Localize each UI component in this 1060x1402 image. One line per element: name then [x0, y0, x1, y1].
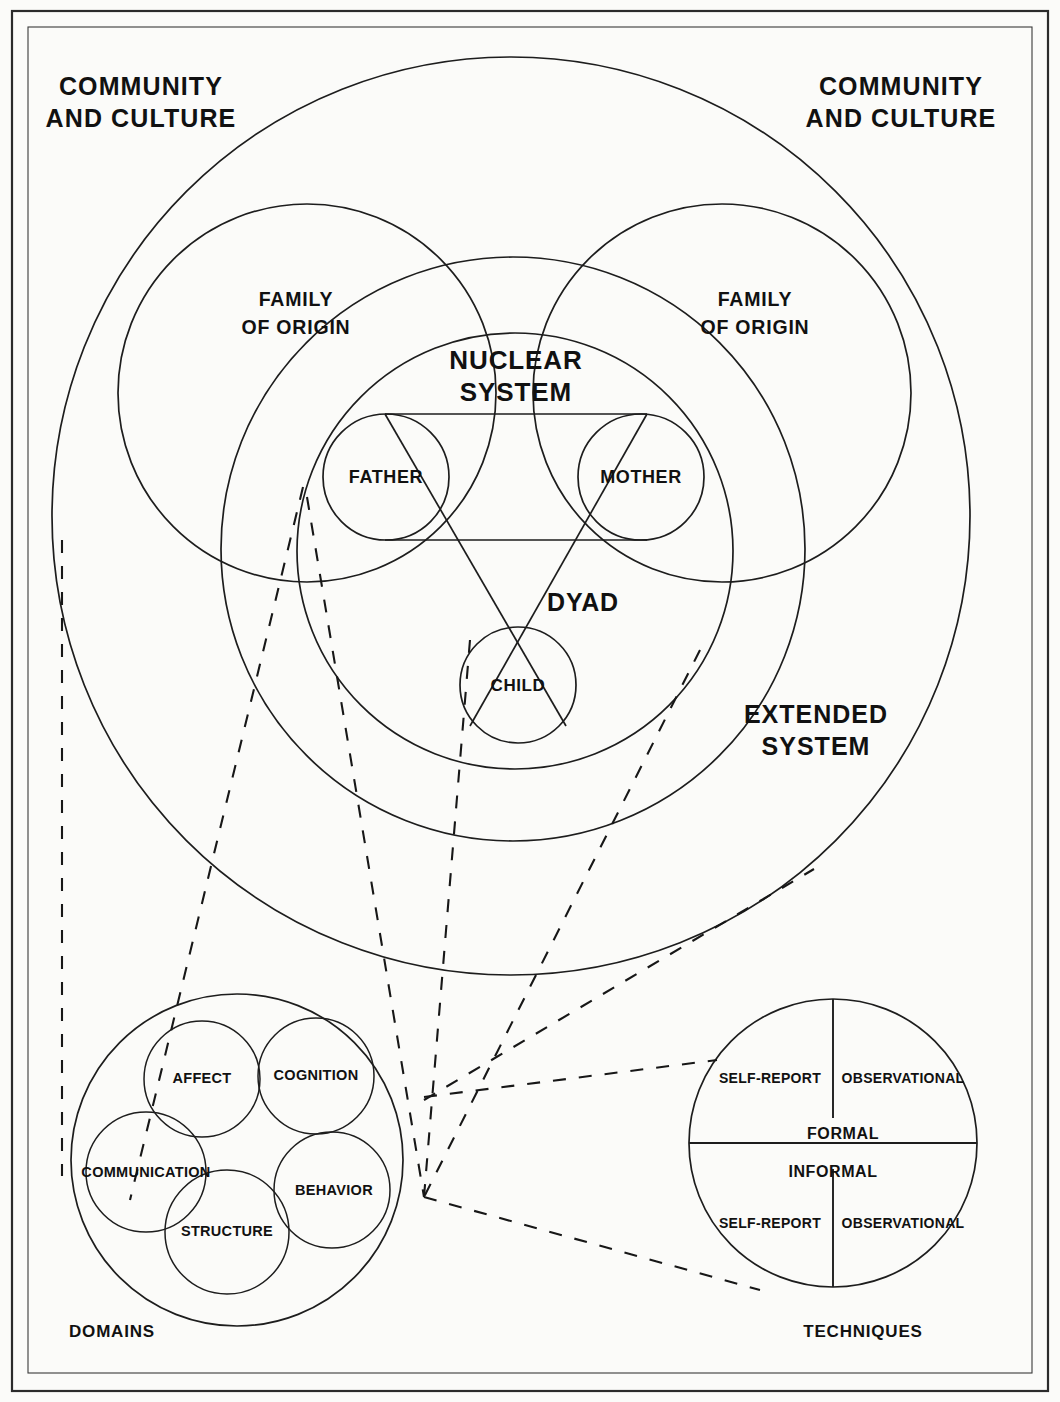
domains-outer-circle: [71, 994, 403, 1326]
techniques-quadrant-formal-observational: OBSERVATIONAL: [842, 1070, 965, 1086]
family-of-origin-right-line1: FAMILY: [718, 288, 793, 310]
domain-label-communication: COMMUNICATION: [81, 1164, 210, 1180]
techniques-band-formal: FORMAL: [807, 1125, 879, 1142]
dashed-connector-hub-to-techniques-upper: [424, 1060, 717, 1097]
techniques-quadrant-formal-self-report: SELF-REPORT: [719, 1070, 821, 1086]
techniques-band-informal: INFORMAL: [788, 1163, 877, 1180]
community-culture-left-line2: AND CULTURE: [46, 104, 237, 132]
domain-label-cognition: COGNITION: [274, 1067, 359, 1083]
extended-system-line1: EXTENDED: [744, 700, 888, 728]
domain-label-behavior: BEHAVIOR: [295, 1182, 373, 1198]
domain-label-affect: AFFECT: [173, 1070, 232, 1086]
father-label: FATHER: [349, 467, 423, 487]
community-culture-left-line1: COMMUNITY: [59, 72, 223, 100]
techniques-quadrant-informal-self-report: SELF-REPORT: [719, 1215, 821, 1231]
child-label: CHILD: [491, 676, 546, 695]
mother-label: MOTHER: [600, 467, 682, 487]
extended-system-line2: SYSTEM: [762, 732, 871, 760]
domains-caption: DOMAINS: [69, 1322, 155, 1341]
dashed-connector-father-to-domains: [130, 487, 303, 1200]
family-of-origin-left-line1: FAMILY: [259, 288, 334, 310]
techniques-caption: TECHNIQUES: [803, 1322, 922, 1341]
community-culture-right-line2: AND CULTURE: [806, 104, 997, 132]
dashed-connector-extended-to-domains: [307, 497, 424, 1197]
domain-label-structure: STRUCTURE: [181, 1223, 273, 1239]
systems-diagram: COMMUNITY AND CULTURE COMMUNITY AND CULT…: [0, 0, 1060, 1402]
figure-page: COMMUNITY AND CULTURE COMMUNITY AND CULT…: [0, 0, 1060, 1402]
dashed-connector-hub-to-techniques-lower: [424, 1197, 760, 1290]
nuclear-system-title-line2: SYSTEM: [460, 377, 572, 407]
community-and-culture-circle: [52, 57, 970, 975]
family-of-origin-right-line2: OF ORIGIN: [700, 316, 809, 338]
community-culture-right-line1: COMMUNITY: [819, 72, 983, 100]
family-of-origin-left-line2: OF ORIGIN: [241, 316, 350, 338]
nuclear-system-title-line1: NUCLEAR: [449, 345, 582, 375]
dashed-connector-child-to-hub: [424, 640, 470, 1197]
family-of-origin-left-circle: [118, 204, 496, 582]
family-of-origin-right-circle: [533, 204, 911, 582]
techniques-quadrant-informal-observational: OBSERVATIONAL: [842, 1215, 965, 1231]
dyad-label: DYAD: [547, 588, 619, 616]
dashed-connector-mother-to-hub: [424, 650, 700, 1197]
page-frame-outer: [12, 11, 1048, 1391]
